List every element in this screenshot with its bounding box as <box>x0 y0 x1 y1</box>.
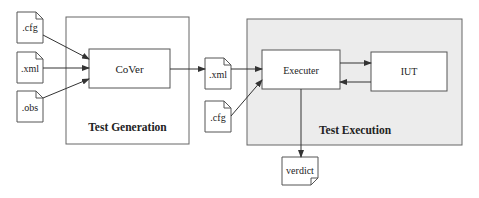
executer-label: Executer <box>262 66 340 76</box>
input-xml-label: .xml <box>17 64 43 74</box>
iut-label: IUT <box>371 67 447 77</box>
test-generation-title: Test Generation <box>66 122 189 134</box>
input-cfg-label: .cfg <box>17 23 43 33</box>
verdict-label: verdict <box>282 166 318 176</box>
cover-label: CoVer <box>89 64 170 75</box>
mid-xml-label: .xml <box>205 70 231 80</box>
input-obs-label: .obs <box>17 103 43 113</box>
mid-cfg-label: .cfg <box>205 113 231 123</box>
test-execution-title: Test Execution <box>290 125 420 137</box>
diagram-canvas <box>0 0 479 198</box>
